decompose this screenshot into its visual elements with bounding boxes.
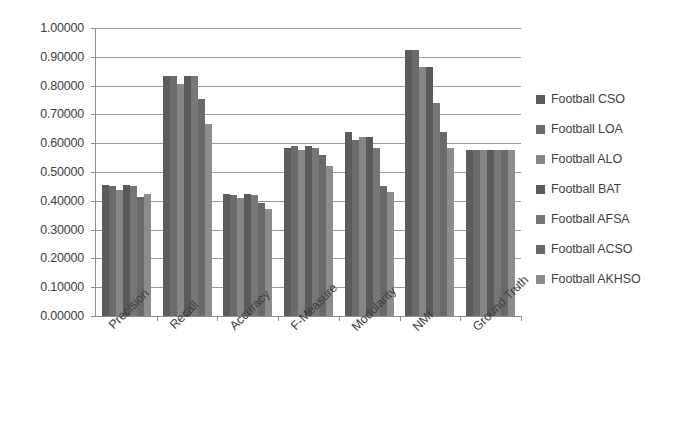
legend-item-label: Football CSO — [551, 92, 625, 106]
legend-swatch-icon — [536, 95, 545, 104]
bar — [198, 99, 205, 316]
legend-swatch-icon — [536, 155, 545, 164]
bar — [426, 67, 433, 316]
bar — [298, 150, 305, 316]
bar — [473, 150, 480, 316]
legend-item-label: Football AFSA — [551, 212, 630, 226]
legend-item-label: Football ALO — [551, 152, 622, 166]
legend-swatch-icon — [536, 245, 545, 254]
legend-item: Football ALO — [536, 144, 699, 174]
bar — [405, 50, 412, 316]
legend-swatch-icon — [536, 215, 545, 224]
bar-group — [157, 28, 218, 316]
bar — [359, 137, 366, 316]
bar — [352, 140, 359, 316]
bar — [291, 146, 298, 316]
chart-legend: Football CSOFootball LOAFootball ALOFoot… — [536, 84, 699, 294]
y-axis-tick-label: 0.40000 — [40, 194, 84, 208]
bar-group — [339, 28, 400, 316]
bar — [244, 194, 251, 316]
y-axis-tick-label: 0.30000 — [40, 223, 84, 237]
legend-swatch-icon — [536, 125, 545, 134]
bar — [184, 76, 191, 316]
y-axis-tick-label: 0.00000 — [40, 309, 84, 323]
legend-item: Football LOA — [536, 114, 699, 144]
bar — [116, 190, 123, 316]
bar — [205, 124, 212, 316]
legend-item: Football AKHSO — [536, 264, 699, 294]
bar — [230, 195, 237, 316]
bar — [223, 194, 230, 316]
bar — [312, 148, 319, 316]
bar — [109, 186, 116, 316]
legend-swatch-icon — [536, 275, 545, 284]
legend-item-label: Football BAT — [551, 182, 621, 196]
legend-item: Football BAT — [536, 174, 699, 204]
bar — [366, 137, 373, 316]
x-axis: PrecisionRecallAccuracyF-MeasureModulari… — [95, 316, 520, 429]
bar-chart: 1.000000.900000.800000.700000.600000.500… — [0, 0, 699, 429]
y-axis-tick-label: 0.20000 — [40, 251, 84, 265]
x-axis-tick-mark — [521, 316, 522, 321]
bar — [412, 50, 419, 316]
bar-group — [96, 28, 157, 316]
bar — [466, 150, 473, 316]
y-axis-tick-label: 1.00000 — [40, 21, 84, 35]
bar — [433, 103, 440, 316]
plot-area — [95, 28, 521, 317]
bar — [440, 132, 447, 316]
bar — [373, 148, 380, 316]
bar — [494, 150, 501, 316]
y-axis-tick-label: 0.50000 — [40, 165, 84, 179]
bar-group — [460, 28, 521, 316]
bar — [284, 148, 291, 316]
bar — [237, 198, 244, 316]
legend-item-label: Football LOA — [551, 122, 623, 136]
bar — [163, 76, 170, 316]
bar — [305, 146, 312, 316]
legend-item-label: Football AKHSO — [551, 272, 641, 286]
y-axis-tick-label: 0.10000 — [40, 280, 84, 294]
legend-swatch-icon — [536, 185, 545, 194]
y-axis-tick-label: 0.60000 — [40, 136, 84, 150]
bar — [419, 67, 426, 316]
y-axis: 1.000000.900000.800000.700000.600000.500… — [0, 0, 84, 429]
bar — [345, 132, 352, 316]
bar — [170, 76, 177, 316]
bar — [123, 185, 130, 316]
y-axis-tick-label: 0.70000 — [40, 107, 84, 121]
bar-group — [278, 28, 339, 316]
legend-item-label: Football ACSO — [551, 242, 632, 256]
bar — [102, 185, 109, 316]
bar — [480, 150, 487, 316]
bar — [487, 150, 494, 316]
bar — [191, 76, 198, 316]
legend-item: Football CSO — [536, 84, 699, 114]
bar-group — [400, 28, 461, 316]
y-axis-tick-label: 0.80000 — [40, 79, 84, 93]
legend-item: Football AFSA — [536, 204, 699, 234]
bar-group — [217, 28, 278, 316]
y-axis-tick-label: 0.90000 — [40, 50, 84, 64]
bar — [177, 84, 184, 316]
legend-item: Football ACSO — [536, 234, 699, 264]
bar — [447, 148, 454, 316]
